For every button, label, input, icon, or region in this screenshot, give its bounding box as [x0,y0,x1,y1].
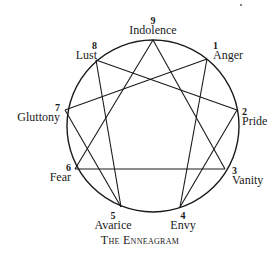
point-4-label: 4 Envy [170,211,195,231]
point-5-label: 5 Avarice [94,211,131,231]
enneagram-circle [67,40,239,212]
point-6-label: 6 Fear [50,163,71,183]
point-9-label: 9 Indolence [129,16,176,36]
point-3-label: 3 Vanity [232,166,263,186]
point-name: Indolence [129,23,176,37]
point-8-label: 8 Lust [76,41,97,61]
enneagram-triangle [75,40,225,169]
point-name: Avarice [94,218,131,232]
point-7-label: 7 Gluttony [17,103,60,123]
point-name: Anger [213,48,243,62]
point-name: Gluttony [17,110,60,124]
point-2-label: 2 Pride [242,107,267,127]
speck-mark [240,4,242,6]
point-1-label: 1 Anger [213,41,243,61]
point-name: Vanity [232,173,263,187]
enneagram-figure [0,0,280,258]
diagram-caption: The Enneagram [101,233,179,248]
point-name: Envy [170,218,195,232]
point-name: Pride [242,114,267,128]
point-name: Lust [76,48,97,62]
point-name: Fear [50,170,71,184]
